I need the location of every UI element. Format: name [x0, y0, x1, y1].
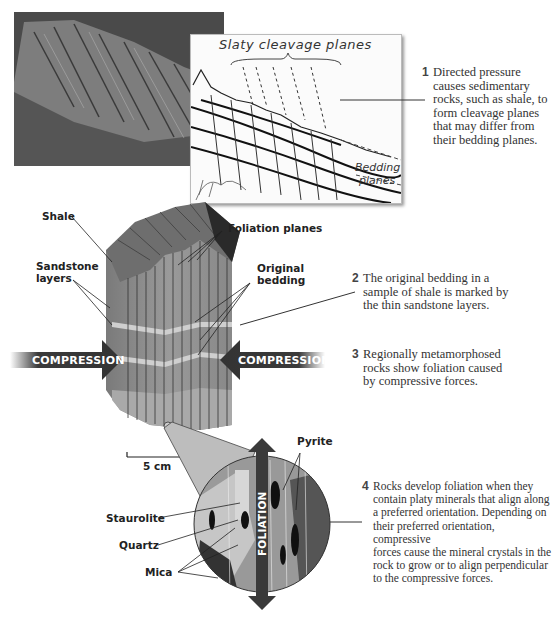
- caption-3-line: rocks show foliation caused: [363, 362, 553, 376]
- caption-2-line: sample of shale is marked by: [363, 286, 553, 300]
- sandstone-label-line2: layers: [36, 272, 99, 284]
- caption-4-line: contain platy minerals that align along: [373, 493, 553, 506]
- caption-4-line: a preferred orientation. Depending on: [373, 506, 553, 519]
- caption-2-line: The original bedding in a: [363, 272, 553, 286]
- foliation-planes-label: Foliation planes: [228, 222, 322, 234]
- caption-4: 4 Rocks develop foliation when they cont…: [373, 480, 553, 586]
- caption-4-line: their preferred orientation, compressive: [373, 520, 553, 546]
- caption-2: 2 The original bedding in a sample of sh…: [363, 272, 553, 313]
- caption-2-line: the thin sandstone layers.: [363, 299, 553, 313]
- compression-right-label: COMPRESSION: [238, 354, 331, 367]
- scale-bar-label: 5 cm: [143, 460, 171, 472]
- sandstone-layers-label: Sandstone layers: [36, 260, 99, 284]
- shale-label: Shale: [42, 210, 75, 222]
- caption-3-line: Regionally metamorphosed: [363, 348, 553, 362]
- caption-3-number: 3: [352, 348, 359, 362]
- original-bedding-label: Original bedding: [257, 262, 305, 286]
- caption-2-number: 2: [352, 272, 359, 286]
- compression-left-label: COMPRESSION: [32, 354, 125, 367]
- foliation-label: FOLIATION: [256, 492, 268, 556]
- original-label-line1: Original: [257, 262, 305, 274]
- caption-4-line: to the compressive forces.: [373, 572, 553, 585]
- caption-4-number: 4: [362, 480, 369, 493]
- quartz-label: Quartz: [119, 539, 159, 551]
- sandstone-label-line1: Sandstone: [36, 260, 99, 272]
- caption-4-line: rock to grow or to align perpendicular: [373, 559, 553, 572]
- pyrite-label: Pyrite: [297, 435, 333, 447]
- caption-4-line: Rocks develop foliation when they: [373, 480, 553, 493]
- caption-3: 3 Regionally metamorphosed rocks show fo…: [363, 348, 553, 389]
- original-label-line2: bedding: [257, 274, 305, 286]
- caption-4-line: forces cause the mineral crystals in the: [373, 546, 553, 559]
- staurolite-label: Staurolite: [106, 512, 165, 524]
- mica-label: Mica: [145, 566, 172, 578]
- caption-3-line: by compressive forces.: [363, 375, 553, 389]
